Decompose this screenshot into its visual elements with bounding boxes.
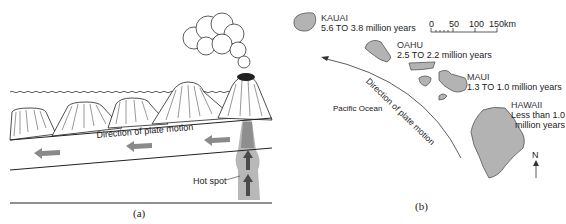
- island-kahoolawe: [439, 94, 447, 100]
- curve-arrowhead-icon: [321, 56, 329, 61]
- crater: [237, 73, 255, 81]
- caption-a: (a): [133, 207, 145, 219]
- north-label: N: [532, 150, 539, 160]
- kauai-name: KAUAI: [321, 13, 348, 23]
- hawaii-age-line2: million years: [515, 120, 565, 130]
- scale-bar: [431, 28, 497, 32]
- sea-level-line: [10, 91, 246, 93]
- volcano-1: [10, 108, 56, 140]
- eruption-cloud: [183, 13, 250, 68]
- island-oahu: [365, 40, 391, 62]
- scale-tick-150km: 150km: [489, 19, 516, 29]
- volcano-5-active: [218, 76, 272, 120]
- oahu-age: 2.5 TO 2.2 million years: [397, 50, 492, 60]
- hawaii-name: HAWAII: [511, 100, 542, 110]
- island-kauai: [294, 13, 316, 31]
- maui-name: MAUI: [467, 72, 490, 82]
- north-arrow-icon: [533, 160, 539, 178]
- arrow-left-icon: [204, 135, 230, 146]
- plate-motion-arrows: [34, 135, 230, 159]
- panel-a-cross-section: Direction of plate motion Hot spot (a): [0, 0, 283, 224]
- hot-spot-leader-line: [226, 176, 240, 180]
- arrow-left-icon: [126, 141, 152, 152]
- oahu-name: OAHU: [397, 40, 423, 50]
- maui-age: 1.3 TO 1.0 million years: [467, 82, 562, 92]
- scale-tick-100: 100: [469, 19, 484, 29]
- arrow-left-icon: [34, 148, 60, 159]
- hot-spot-label: Hot spot: [193, 176, 227, 186]
- pacific-ocean-label: Pacific Ocean: [333, 104, 382, 114]
- caption-b: (b): [415, 200, 428, 212]
- hawaii-age-line1: Less than 1.0: [511, 110, 565, 120]
- panel-b-map: KAUAI 5.6 TO 3.8 million years OAHU 2.5 …: [283, 0, 566, 224]
- scale-tick-50: 50: [449, 19, 459, 29]
- island-maui: [439, 70, 467, 92]
- island-lanai: [419, 76, 431, 86]
- cross-section-drawing: [0, 0, 283, 224]
- kauai-age: 5.6 TO 3.8 million years: [321, 23, 416, 33]
- scale-tick-0: 0: [429, 19, 434, 29]
- island-molokai: [409, 62, 435, 70]
